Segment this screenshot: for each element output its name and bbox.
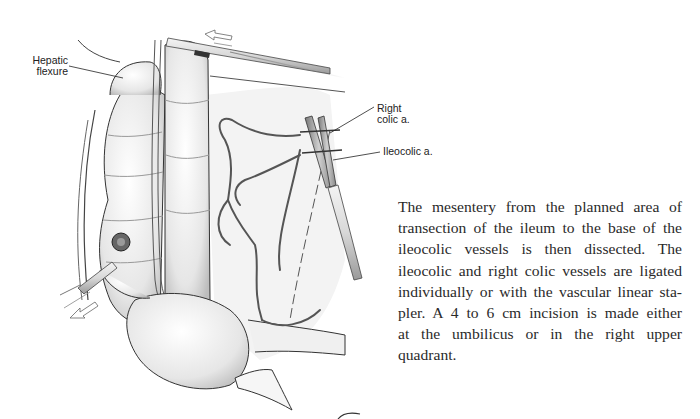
label-right-colic-artery: Right colic a.	[377, 103, 410, 125]
text-line: The mesentery from the planned area of	[398, 196, 682, 217]
text-line: individually or with the vascular linear…	[398, 281, 682, 302]
upper-traction-arrow	[205, 30, 232, 46]
text-line: quadrant.	[398, 344, 682, 365]
label-hepatic-flexure: Hepatic flexure	[24, 55, 68, 77]
text-line: ileocolic and right colic vessels are li…	[398, 260, 682, 281]
port-site-arc	[338, 413, 360, 419]
label-line: colic a.	[377, 114, 410, 125]
right-colic-leader	[330, 107, 374, 133]
label-line: flexure	[24, 66, 68, 77]
text-line: at the umbilicus or in the right upper	[398, 323, 682, 344]
appendix	[235, 369, 292, 410]
text-line: transection of the ileum to the base of …	[398, 217, 682, 238]
text-line: pler. A 4 to 6 cm incision is made eithe…	[398, 302, 682, 323]
text-line: ileocolic vessels is then dissected. The	[398, 238, 682, 259]
label-ileocolic-artery: Ileocolic a.	[383, 146, 433, 157]
hepatic-flexure-leader	[69, 66, 123, 78]
tumor-lesion	[112, 233, 130, 251]
ileocolic-leader	[333, 152, 380, 160]
body-paragraph: The mesentery from the planned area of t…	[398, 196, 682, 366]
